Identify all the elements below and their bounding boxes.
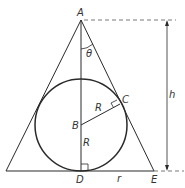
- side-AL: [6, 20, 81, 171]
- arrowhead-down-icon: [165, 165, 169, 171]
- label-h: h: [169, 89, 175, 100]
- label-C: C: [122, 94, 129, 105]
- label-E: E: [151, 174, 158, 185]
- label-B: B: [72, 120, 79, 131]
- label-A: A: [76, 7, 84, 18]
- label-r: r: [117, 173, 122, 184]
- label-D: D: [76, 174, 84, 185]
- label-R-lower: R: [83, 137, 90, 148]
- cone-inscribed-sphere-diagram: A θ R C B R D r E h: [0, 0, 185, 188]
- label-theta: θ: [86, 48, 92, 59]
- label-R-upper: R: [95, 102, 102, 113]
- arrowhead-up-icon: [165, 20, 169, 26]
- side-AE: [81, 20, 154, 171]
